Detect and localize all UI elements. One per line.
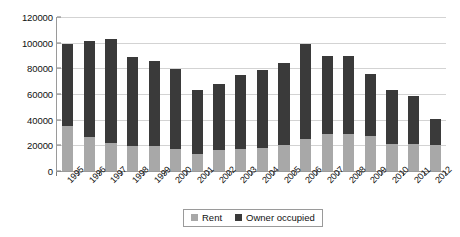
x-axis-label-slot: 2011 <box>403 177 425 211</box>
bar-segment-rent[interactable] <box>278 145 289 171</box>
bar-stack[interactable] <box>257 17 268 171</box>
plot-area: 120000100000800006000040000200000 <box>56 17 446 172</box>
bar-slot <box>143 17 165 171</box>
bar-stack[interactable] <box>300 17 311 171</box>
bar-stack[interactable] <box>192 17 203 171</box>
x-axis-label-slot: 2003 <box>229 177 251 211</box>
bar-slot <box>381 17 403 171</box>
x-axis-labels: 1995199619971998199920002001200220032004… <box>56 177 446 211</box>
y-axis-tick-label: 40000 <box>27 114 57 125</box>
y-axis-tick: 80000 <box>27 63 57 74</box>
bar-segment-rent[interactable] <box>365 136 376 171</box>
bar-slot <box>295 17 317 171</box>
bar-segment-rent[interactable] <box>170 149 181 171</box>
bar-segment-rent[interactable] <box>408 144 419 171</box>
bar-segment-rent[interactable] <box>84 137 95 171</box>
bar-stack[interactable] <box>170 17 181 171</box>
bar-slot <box>273 17 295 171</box>
legend-item-rent: Rent <box>191 212 222 223</box>
bar-segment-owner-occupied[interactable] <box>365 74 376 136</box>
bar-slot <box>187 17 209 171</box>
bar-stack[interactable] <box>62 17 73 171</box>
bar-segment-owner-occupied[interactable] <box>213 84 224 150</box>
bar-stack[interactable] <box>322 17 333 171</box>
y-axis-tick: 20000 <box>27 140 57 151</box>
bar-segment-rent[interactable] <box>257 148 268 171</box>
bar-slot <box>79 17 101 171</box>
bar-slot <box>165 17 187 171</box>
bar-segment-rent[interactable] <box>343 134 354 171</box>
bar-stack[interactable] <box>235 17 246 171</box>
x-axis-label-slot: 2008 <box>338 177 360 211</box>
bar-segment-owner-occupied[interactable] <box>322 56 333 134</box>
x-axis-tick-mark <box>56 172 57 176</box>
bar-segment-owner-occupied[interactable] <box>300 44 311 138</box>
x-axis-label-slot: 1995 <box>56 177 78 211</box>
legend-swatch-rent-icon <box>191 214 198 221</box>
bar-slot <box>230 17 252 171</box>
x-axis-label-slot: 2002 <box>208 177 230 211</box>
bar-segment-owner-occupied[interactable] <box>408 96 419 144</box>
bars-group <box>57 17 446 171</box>
y-axis-tick-label: 80000 <box>27 63 57 74</box>
x-axis-label-slot: 2012 <box>424 177 446 211</box>
x-axis-label-slot: 1997 <box>99 177 121 211</box>
bar-segment-owner-occupied[interactable] <box>62 44 73 125</box>
bar-segment-rent[interactable] <box>62 126 73 171</box>
bar-slot <box>316 17 338 171</box>
x-axis-label-slot: 2001 <box>186 177 208 211</box>
x-axis-label-slot: 2000 <box>164 177 186 211</box>
bar-segment-rent[interactable] <box>192 154 203 171</box>
bar-segment-rent[interactable] <box>105 143 116 171</box>
bar-segment-rent[interactable] <box>213 150 224 171</box>
bar-segment-rent[interactable] <box>322 134 333 171</box>
bar-slot <box>360 17 382 171</box>
bar-stack[interactable] <box>278 17 289 171</box>
bar-stack[interactable] <box>149 17 160 171</box>
x-axis-label-slot: 1996 <box>78 177 100 211</box>
bar-segment-rent[interactable] <box>235 149 246 171</box>
bar-segment-owner-occupied[interactable] <box>149 61 160 146</box>
legend-swatch-owner-occupied-icon <box>235 214 242 221</box>
bar-stack[interactable] <box>127 17 138 171</box>
bar-segment-owner-occupied[interactable] <box>386 90 397 144</box>
y-axis-tick: 40000 <box>27 114 57 125</box>
bar-segment-owner-occupied[interactable] <box>84 41 95 138</box>
bar-slot <box>403 17 425 171</box>
bar-segment-owner-occupied[interactable] <box>192 90 203 155</box>
bar-stack[interactable] <box>365 17 376 171</box>
bar-segment-rent[interactable] <box>149 146 160 171</box>
y-axis-tick: 100000 <box>22 37 57 48</box>
bar-segment-owner-occupied[interactable] <box>105 39 116 142</box>
legend-label-rent: Rent <box>202 212 222 223</box>
bar-slot <box>338 17 360 171</box>
bar-stack[interactable] <box>408 17 419 171</box>
bar-segment-owner-occupied[interactable] <box>257 70 268 148</box>
bar-segment-owner-occupied[interactable] <box>343 56 354 134</box>
x-axis-label-slot: 2009 <box>359 177 381 211</box>
bar-stack[interactable] <box>213 17 224 171</box>
bar-slot <box>100 17 122 171</box>
bar-slot <box>251 17 273 171</box>
bar-segment-owner-occupied[interactable] <box>235 75 246 149</box>
bar-stack[interactable] <box>84 17 95 171</box>
x-axis-label-slot: 2005 <box>273 177 295 211</box>
bar-segment-rent[interactable] <box>430 145 441 171</box>
legend-item-owner-occupied: Owner occupied <box>235 212 315 223</box>
bar-segment-rent[interactable] <box>127 146 138 171</box>
bar-segment-owner-occupied[interactable] <box>127 57 138 146</box>
bar-slot <box>208 17 230 171</box>
bar-stack[interactable] <box>105 17 116 171</box>
stacked-bar-chart: 120000100000800006000040000200000 199519… <box>0 0 460 237</box>
bar-segment-rent[interactable] <box>300 139 311 171</box>
chart-legend: Rent Owner occupied <box>183 209 323 227</box>
bar-stack[interactable] <box>386 17 397 171</box>
bar-segment-owner-occupied[interactable] <box>278 63 289 146</box>
bar-stack[interactable] <box>430 17 441 171</box>
y-axis-tick: 120000 <box>22 12 57 23</box>
bar-segment-rent[interactable] <box>386 144 397 171</box>
bar-segment-owner-occupied[interactable] <box>170 69 181 149</box>
legend-label-owner-occupied: Owner occupied <box>246 212 315 223</box>
bar-stack[interactable] <box>343 17 354 171</box>
bar-segment-owner-occupied[interactable] <box>430 119 441 145</box>
